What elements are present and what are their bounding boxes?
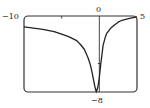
x-max-label: 5 [140, 12, 145, 21]
x-zero-label: 0 [96, 5, 101, 14]
x-min-label: −10 [2, 12, 19, 21]
plot-frame [24, 16, 137, 92]
chart: −10 0 5 −8 [0, 0, 150, 108]
axis-ticks [62, 16, 101, 64]
y-min-label: −8 [91, 96, 103, 105]
data-line [24, 17, 137, 92]
